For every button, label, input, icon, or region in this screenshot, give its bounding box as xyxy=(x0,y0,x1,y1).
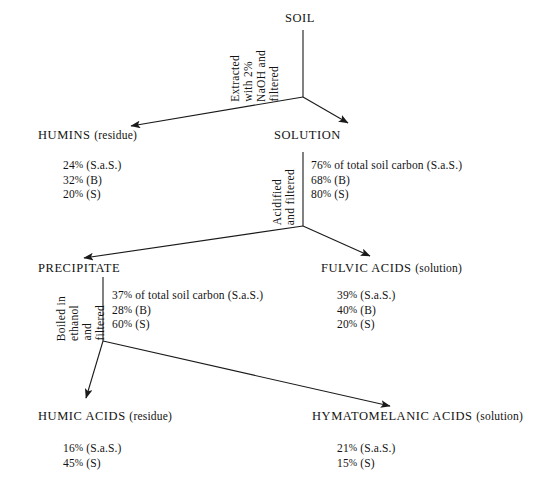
ethanol-boil-line-4: filtered xyxy=(94,305,106,341)
node-humins-qualifier: (residue) xyxy=(94,129,137,141)
node-hymatomelanic-acids-name: HYMATOMELANIC ACIDS xyxy=(312,409,473,423)
stats-humic-acids-row-2: 45% (S) xyxy=(63,456,122,471)
edge-precipitate-to-hymatomelanic-acids xyxy=(103,341,390,406)
node-humic-acids-qualifier: (residue) xyxy=(129,410,172,422)
edge-soil-to-solution xyxy=(303,97,348,123)
node-humins-name: HUMINS xyxy=(38,128,91,142)
stats-solution-row-1: 76% of total soil carbon (S.a.S.) xyxy=(311,158,462,173)
stats-humins-row-1: 24% (S.a.S.) xyxy=(63,158,122,173)
node-soil: SOIL xyxy=(285,11,315,26)
stats-humins-row-2: 32% (B) xyxy=(63,173,122,188)
node-fulvic-acids-qualifier: (solution) xyxy=(415,262,462,274)
node-precipitate: PRECIPITATE xyxy=(38,261,120,276)
stats-hymatomelanic-acids-row-2: 15% (S) xyxy=(337,456,396,471)
process-label-ethanol-boil: Boiled in ethanol and filtered xyxy=(55,283,106,341)
node-hymatomelanic-acids-qualifier: (solution) xyxy=(476,410,523,422)
edge-precipitate-to-humic-acids xyxy=(86,341,103,398)
stats-precipitate-row-1: 37% of total soil carbon (S.a.S.) xyxy=(112,288,263,303)
node-humic-acids: HUMIC ACIDS (residue) xyxy=(38,409,172,424)
process-label-acidification: Acidified and filtered xyxy=(271,155,296,225)
extraction-line-2: with 2% xyxy=(242,61,254,102)
node-fulvic-acids-name: FULVIC ACIDS xyxy=(321,261,412,275)
stats-humic-acids-row-1: 16% (S.a.S.) xyxy=(63,441,122,456)
stats-fulvic-acids-row-3: 20% (S) xyxy=(337,317,396,332)
stats-humins: 24% (S.a.S.) 32% (B) 20% (S) xyxy=(63,158,122,202)
stats-hymatomelanic-acids: 21% (S.a.S.) 15% (S) xyxy=(337,441,396,470)
acidification-line-1: Acidified xyxy=(271,179,283,225)
acidification-line-2: and filtered xyxy=(284,169,296,225)
stats-solution: 76% of total soil carbon (S.a.S.) 68% (B… xyxy=(311,158,462,202)
extraction-line-4: filtered xyxy=(268,66,280,102)
stats-fulvic-acids-row-1: 39% (S.a.S.) xyxy=(337,288,396,303)
stats-humins-row-3: 20% (S) xyxy=(63,187,122,202)
stats-precipitate-row-3: 60% (S) xyxy=(112,317,263,332)
node-fulvic-acids: FULVIC ACIDS (solution) xyxy=(321,261,462,276)
stats-hymatomelanic-acids-row-1: 21% (S.a.S.) xyxy=(337,441,396,456)
stats-precipitate: 37% of total soil carbon (S.a.S.) 28% (B… xyxy=(112,288,263,332)
stats-solution-row-2: 68% (B) xyxy=(311,173,462,188)
ethanol-boil-line-2: ethanol xyxy=(68,305,80,341)
node-solution: SOLUTION xyxy=(274,128,341,143)
stats-fulvic-acids: 39% (S.a.S.) 40% (B) 20% (S) xyxy=(337,288,396,332)
stats-fulvic-acids-row-2: 40% (B) xyxy=(337,303,396,318)
node-precipitate-name: PRECIPITATE xyxy=(38,261,120,275)
edge-solution-to-precipitate xyxy=(84,226,303,258)
edge-solution-to-fulvic-acids xyxy=(303,226,370,256)
process-label-extraction: Extracted with 2% NaOH and filtered xyxy=(229,26,280,102)
stats-precipitate-row-2: 28% (B) xyxy=(112,303,263,318)
node-solution-name: SOLUTION xyxy=(274,128,341,142)
extraction-line-3: NaOH and xyxy=(255,50,267,102)
ethanol-boil-line-1: Boiled in xyxy=(55,296,67,341)
diagram-canvas: SOIL HUMINS (residue) SOLUTION PRECIPITA… xyxy=(0,0,554,485)
node-humins: HUMINS (residue) xyxy=(38,128,137,143)
node-soil-name: SOIL xyxy=(285,11,315,25)
node-humic-acids-name: HUMIC ACIDS xyxy=(38,409,126,423)
extraction-line-1: Extracted xyxy=(229,55,241,102)
node-hymatomelanic-acids: HYMATOMELANIC ACIDS (solution) xyxy=(312,409,523,424)
stats-humic-acids: 16% (S.a.S.) 45% (S) xyxy=(63,441,122,470)
ethanol-boil-line-3: and xyxy=(81,323,93,341)
stats-solution-row-3: 80% (S) xyxy=(311,187,462,202)
